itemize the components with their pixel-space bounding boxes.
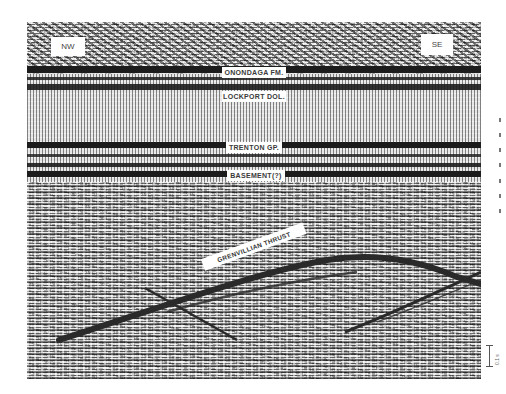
margin-caption-fragment xyxy=(497,118,503,213)
time-scale-bar: 0.1 s xyxy=(485,345,503,367)
orientation-label-se: SE xyxy=(421,34,453,55)
scale-bar-cap-bottom xyxy=(486,366,493,367)
scale-bar-cap-top xyxy=(486,345,493,346)
orientation-nw-text: NW xyxy=(61,42,74,51)
grenvillian-thrust-reflector xyxy=(59,257,481,340)
scale-bar-line xyxy=(489,345,490,367)
right-fault-line xyxy=(345,272,481,332)
horizon-label-onondaga: ONONDAGA FM. xyxy=(222,67,286,78)
scale-bar-label: 0.1 s xyxy=(494,347,500,365)
orientation-se-text: SE xyxy=(432,40,443,49)
seismic-figure: NW SE ONONDAGA FM. LOCKPORT DOL. TRENTON… xyxy=(0,0,506,394)
horizon-label-lockport: LOCKPORT DOL. xyxy=(222,91,286,102)
orientation-label-nw: NW xyxy=(51,37,85,56)
horizon-label-trenton: TRENTON GP. xyxy=(226,142,282,153)
horizon-label-basement: BASEMENT(?) xyxy=(227,170,285,181)
right-fault-line-2 xyxy=(377,280,481,322)
